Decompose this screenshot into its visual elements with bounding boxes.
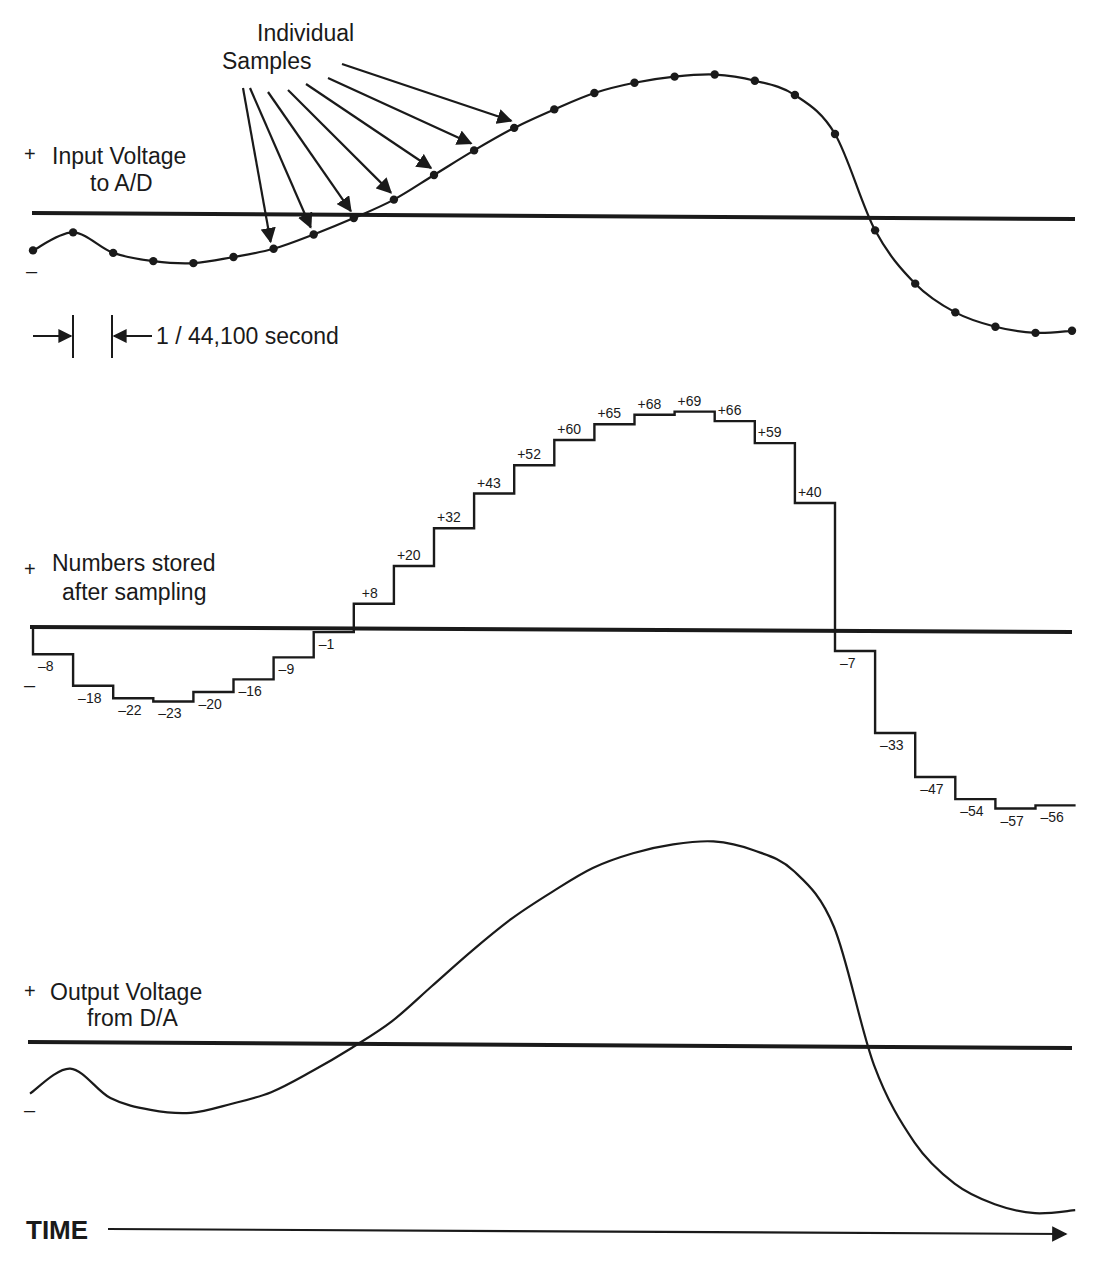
stored-value-label: –8 — [38, 658, 54, 674]
sample-dot — [711, 70, 719, 78]
stored-value-label: –23 — [158, 705, 182, 721]
stored-value-label: +65 — [597, 405, 621, 421]
stored-plus-sign: + — [24, 558, 36, 580]
sample-dot — [630, 79, 638, 87]
stored-value-label: +69 — [678, 393, 702, 409]
output-label-line1: Output Voltage — [50, 979, 202, 1005]
input-minus-sign: – — [26, 260, 38, 282]
stored-value-label: +20 — [397, 547, 421, 563]
sample-dot — [751, 77, 759, 85]
sample-dot — [1031, 329, 1039, 337]
sample-dot — [109, 249, 117, 257]
stored-value-label: –7 — [840, 655, 856, 671]
sample-interval-label: 1 / 44,100 second — [156, 323, 339, 349]
output-minus-sign: – — [24, 1099, 36, 1121]
sample-dot — [390, 195, 398, 203]
stored-value-label: +8 — [362, 585, 378, 601]
output-waveform — [30, 841, 1075, 1213]
stored-value-label: –1 — [319, 636, 335, 652]
sample-dot — [951, 308, 959, 316]
input-label-line1: Input Voltage — [52, 143, 186, 169]
sample-dot — [269, 245, 277, 253]
input-plus-sign: + — [24, 143, 36, 165]
stored-value-label: –22 — [118, 702, 142, 718]
output-zero-axis — [28, 1042, 1072, 1048]
sampling-diagram: + Input Voltage to A/D – Individual Samp… — [0, 0, 1097, 1263]
sample-dot — [510, 124, 518, 132]
sample-dot — [550, 105, 558, 113]
sample-dot — [670, 72, 678, 80]
stored-value-label: –9 — [279, 661, 295, 677]
stored-label-line1: Numbers stored — [52, 550, 216, 576]
sample-dot — [310, 230, 318, 238]
stored-value-labels: –8–18–22–23–20–16–9–1+8+20+32+43+52+60+6… — [38, 393, 1064, 829]
output-plus-sign: + — [24, 980, 36, 1002]
sample-dot — [871, 226, 879, 234]
sample-dot — [229, 253, 237, 261]
callout-line1: Individual — [257, 20, 354, 46]
time-axis-label: TIME — [26, 1215, 88, 1245]
stored-value-label: –54 — [960, 803, 984, 819]
sample-interval-marker — [33, 315, 152, 358]
stored-value-label: –56 — [1041, 809, 1065, 825]
sample-dot — [1068, 327, 1076, 335]
callout-line2: Samples — [222, 48, 311, 74]
callout-arrow — [328, 78, 471, 143]
stored-panel: + Numbers stored after sampling – –8–18–… — [24, 393, 1076, 829]
sample-points — [29, 70, 1076, 337]
sample-dot — [590, 89, 598, 97]
time-axis: TIME — [26, 1215, 1066, 1245]
sample-dot — [991, 323, 999, 331]
sample-dot — [149, 257, 157, 265]
stored-value-label: +59 — [758, 424, 782, 440]
stored-zero-axis — [30, 627, 1072, 632]
stored-staircase — [33, 412, 1076, 809]
stored-value-label: –18 — [78, 690, 102, 706]
output-label-line2: from D/A — [87, 1005, 178, 1031]
sample-dot — [791, 91, 799, 99]
input-zero-axis — [32, 213, 1075, 219]
input-label-line2: to A/D — [90, 170, 153, 196]
stored-value-label: –20 — [198, 696, 222, 712]
stored-minus-sign: – — [24, 674, 36, 696]
stored-value-label: +43 — [477, 475, 501, 491]
stored-label-line2: after sampling — [62, 579, 206, 605]
callout-arrow — [243, 88, 271, 242]
stored-value-label: –47 — [920, 781, 944, 797]
sample-dot — [69, 228, 77, 236]
stored-value-label: +40 — [798, 484, 822, 500]
sample-dot — [430, 171, 438, 179]
stored-value-label: +66 — [718, 402, 742, 418]
stored-value-label: +68 — [638, 396, 662, 412]
stored-value-label: +60 — [557, 421, 581, 437]
sample-dot — [189, 259, 197, 267]
sample-dot — [911, 279, 919, 287]
sample-dot — [470, 146, 478, 154]
input-panel: + Input Voltage to A/D – Individual Samp… — [24, 20, 1076, 358]
sample-dot — [831, 130, 839, 138]
time-arrow — [108, 1229, 1066, 1234]
stored-value-label: +32 — [437, 509, 461, 525]
callout-arrow — [342, 64, 511, 121]
stored-value-label: +52 — [517, 446, 541, 462]
sample-dot — [29, 246, 37, 254]
stored-value-label: –57 — [1000, 813, 1024, 829]
sample-dot — [350, 214, 358, 222]
stored-value-label: –16 — [239, 683, 263, 699]
stored-value-label: –33 — [880, 737, 904, 753]
output-panel: + Output Voltage from D/A – — [24, 841, 1075, 1213]
